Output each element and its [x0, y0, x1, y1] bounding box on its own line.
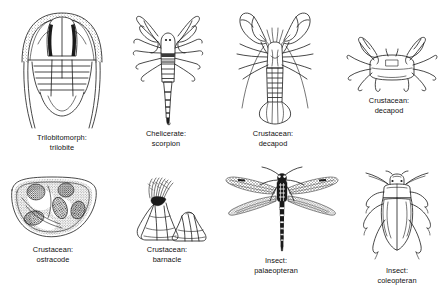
caption-taxon-label: palaeopteran [218, 266, 334, 276]
caption-taxon-label: ostracode [0, 255, 111, 265]
dragonfly-icon [224, 166, 342, 258]
caption-group-label: Insect: [265, 256, 287, 265]
barnacle-icon [124, 176, 212, 244]
trilobite-icon [8, 4, 116, 130]
arthropod-plate: Trilobitomorph: trilobite [0, 0, 443, 289]
caption-lobster: Crustacean: decapod [215, 129, 331, 149]
caption-group-label: Crustacean: [369, 96, 409, 105]
caption-crab: Crustacean: decapod [331, 96, 443, 116]
caption-beetle: Insect: coleopteran [339, 266, 443, 286]
caption-taxon-label: trilobite [2, 143, 122, 153]
caption-dragonfly: Insect: palaeopteran [218, 256, 334, 276]
beetle-icon [354, 170, 440, 264]
caption-scorpion: Chelicerate: scorpion [108, 129, 224, 149]
caption-barnacle: Crustacean: barnacle [109, 245, 225, 265]
caption-group-label: Crustacean: [147, 245, 187, 254]
caption-trilobite: Trilobitomorph: trilobite [2, 133, 122, 153]
caption-group-label: Insect: [386, 266, 408, 275]
caption-taxon-label: barnacle [109, 255, 225, 265]
caption-group-label: Crustacean: [253, 129, 293, 138]
caption-taxon-label: decapod [215, 139, 331, 149]
caption-group-label: Crustacean: [33, 245, 73, 254]
caption-taxon-label: coleopteran [339, 276, 443, 286]
crab-icon [344, 24, 440, 92]
caption-group-label: Chelicerate: [146, 129, 186, 138]
caption-taxon-label: scorpion [108, 139, 224, 149]
caption-ostracode: Crustacean: ostracode [0, 245, 111, 265]
caption-taxon-label: decapod [331, 106, 443, 116]
scorpion-icon [128, 12, 208, 126]
ostracode-icon [8, 174, 100, 240]
lobster-icon [228, 6, 322, 130]
caption-group-label: Trilobitomorph: [37, 133, 87, 142]
